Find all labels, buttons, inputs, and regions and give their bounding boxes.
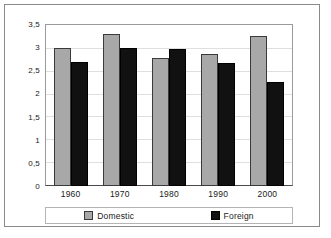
chart-legend: DomesticForeign (45, 207, 293, 224)
y-tick-label: 3 (35, 43, 40, 52)
y-tick-label: 1 (35, 135, 40, 144)
bar-foreign-1960[interactable] (71, 62, 88, 186)
x-tick-label: 1990 (194, 189, 243, 205)
legend-label: Foreign (224, 211, 254, 221)
bar-group (144, 25, 193, 186)
bar-domestic-2000[interactable] (250, 36, 267, 186)
bar-domestic-1970[interactable] (103, 34, 120, 186)
bar-groups (46, 25, 292, 186)
bar-group (243, 25, 292, 186)
bar-domestic-1960[interactable] (54, 48, 71, 186)
bar-foreign-1980[interactable] (169, 49, 186, 186)
y-tick-label: 0 (35, 182, 40, 191)
bar-domestic-1980[interactable] (152, 58, 169, 186)
x-tick-label: 1960 (46, 189, 95, 205)
y-tick-label: 2 (35, 89, 40, 98)
x-tick-label: 1980 (144, 189, 193, 205)
bar-domestic-1990[interactable] (201, 54, 218, 186)
bar-group (95, 25, 144, 186)
y-axis: 00,511,522,533,5 (5, 24, 45, 186)
x-axis: 19601970198019902000 (46, 189, 292, 205)
chart-figure: 00,511,522,533,5 19601970198019902000 Do… (4, 4, 320, 227)
y-tick-label: 1,5 (28, 112, 40, 121)
y-tick-label: 0,5 (28, 158, 40, 167)
legend-swatch-icon (211, 211, 220, 220)
legend-swatch-icon (84, 211, 93, 220)
bar-group (194, 25, 243, 186)
legend-item-domestic[interactable]: Domestic (84, 211, 134, 221)
legend-label: Domestic (97, 211, 134, 221)
bar-foreign-2000[interactable] (267, 82, 284, 186)
legend-item-foreign[interactable]: Foreign (211, 211, 254, 221)
bar-group (46, 25, 95, 186)
y-tick-label: 2,5 (28, 66, 40, 75)
x-tick-label: 1970 (95, 189, 144, 205)
x-tick-label: 2000 (243, 189, 292, 205)
bar-foreign-1990[interactable] (218, 63, 235, 186)
bar-foreign-1970[interactable] (120, 48, 137, 186)
y-tick-label: 3,5 (28, 20, 40, 29)
